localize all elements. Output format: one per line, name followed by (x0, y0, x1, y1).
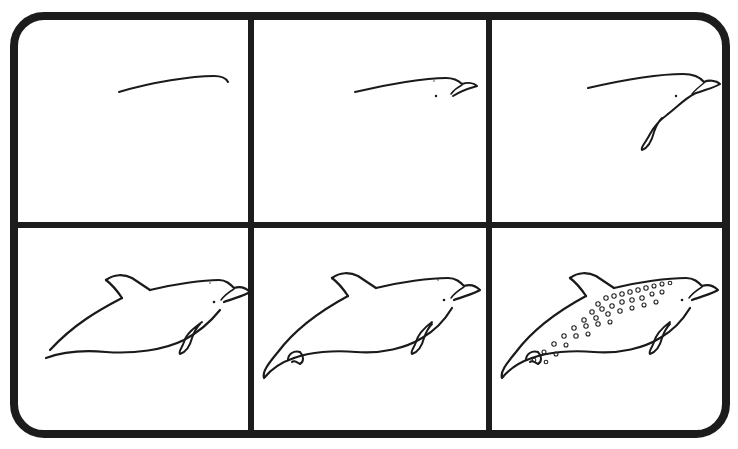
dolphin-tutorial-sheet: Step 1 Step 2 Step 3 Step 4 Step 5 Step … (0, 0, 738, 449)
tutorial-grid (0, 0, 738, 449)
